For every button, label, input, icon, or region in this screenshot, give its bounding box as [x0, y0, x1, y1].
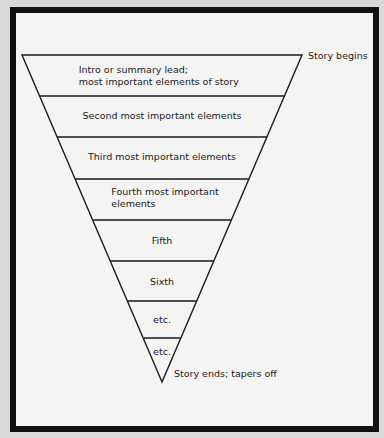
tier-1-line-1: Intro or summary lead; — [79, 64, 239, 76]
tier-8-label: etc. — [153, 346, 171, 358]
tier-2-label: Second most important elements — [83, 110, 242, 122]
tier-3-label: Third most important elements — [88, 151, 236, 163]
tier-6-label: Sixth — [150, 276, 174, 288]
story-begins-annotation: Story begins — [308, 50, 368, 61]
tier-4-line-1: Fourth most important — [111, 186, 218, 198]
tier-1-line-2: most important elements of story — [79, 76, 239, 88]
tier-5-label: Fifth — [152, 235, 172, 247]
tier-4-line-2: elements — [111, 198, 218, 210]
pyramid-outline — [22, 55, 302, 382]
tier-4-label: Fourth most important elements — [111, 186, 218, 210]
tier-7-label: etc. — [153, 314, 171, 326]
tier-1-label: Intro or summary lead; most important el… — [79, 64, 239, 88]
story-ends-annotation: Story ends; tapers off — [174, 368, 277, 379]
